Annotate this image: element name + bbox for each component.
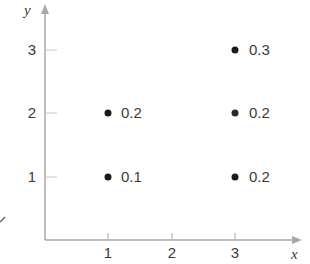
data-point	[232, 174, 239, 181]
y-axis-label: y	[22, 2, 31, 18]
scatter-chart: x y 1 2 3 1 2 3 0.1 0.2 0.2 0.2 0.3	[0, 0, 310, 264]
point-label: 0.2	[121, 104, 142, 121]
y-ticks: 1 2 3	[28, 41, 57, 185]
data-points: 0.1 0.2 0.2 0.2 0.3	[105, 41, 270, 185]
data-point	[232, 47, 239, 54]
data-point	[105, 174, 112, 181]
x-tick-label: 2	[168, 244, 176, 261]
point-label: 0.1	[121, 168, 142, 185]
x-tick-label: 3	[231, 244, 239, 261]
point-label: 0.2	[249, 104, 270, 121]
y-tick-label: 3	[28, 41, 36, 58]
point-label: 0.2	[249, 168, 270, 185]
data-point	[232, 110, 239, 117]
point-label: 0.3	[249, 41, 270, 58]
y-tick-label: 2	[28, 104, 36, 121]
clipped-glyph-fragment	[0, 217, 5, 222]
x-axis-label: x	[290, 246, 298, 262]
y-tick-label: 1	[28, 168, 36, 185]
x-ticks: 1 2 3	[104, 233, 239, 261]
x-tick-label: 1	[104, 244, 112, 261]
data-point	[105, 110, 112, 117]
